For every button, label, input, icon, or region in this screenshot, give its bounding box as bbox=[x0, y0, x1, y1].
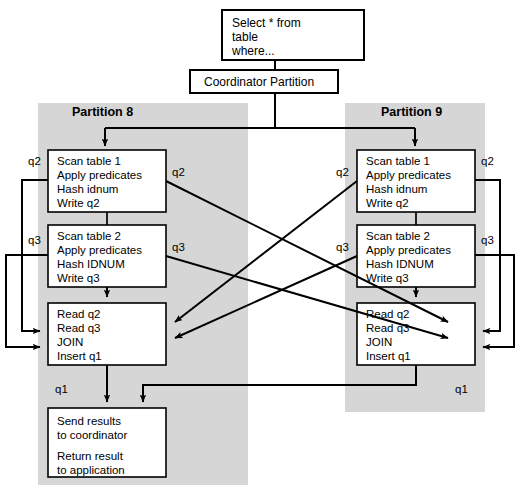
p8-q3-left-label: q3 bbox=[28, 234, 41, 246]
p9-scan-table-2-line-3: Hash IDNUM bbox=[366, 258, 434, 270]
p8-join-line-1: Read q2 bbox=[57, 308, 100, 320]
p9-scan-table-1-line-1: Scan table 1 bbox=[366, 155, 430, 167]
p9-join-line-4: Insert q1 bbox=[366, 350, 411, 362]
p9-scan-table-1-line-4: Write q2 bbox=[366, 197, 409, 209]
p8-join-line-4: Insert q1 bbox=[57, 350, 102, 362]
p9-join-line-2: Read q3 bbox=[366, 322, 409, 334]
query-box-line-2: table bbox=[232, 30, 258, 44]
p8-scan-table-1-line-4: Write q2 bbox=[57, 197, 100, 209]
p8-scan-table-2-line-2: Apply predicates bbox=[57, 244, 142, 256]
p8-scan-table-1-line-1: Scan table 1 bbox=[57, 155, 121, 167]
partition-9-title: Partition 9 bbox=[381, 105, 442, 119]
p9-scan-table-1-line-2: Apply predicates bbox=[366, 169, 451, 181]
p9-scan-table-2-line-1: Scan table 2 bbox=[366, 230, 430, 242]
p9-q1-label: q1 bbox=[455, 383, 468, 395]
p8-scan-table-1-line-2: Apply predicates bbox=[57, 169, 142, 181]
p8-join-line-3: JOIN bbox=[57, 336, 83, 348]
p9-q2-left-label: q2 bbox=[336, 166, 349, 178]
p8-scan-table-2-line-4: Write q3 bbox=[57, 272, 100, 284]
p8-q2-left-label: q2 bbox=[28, 155, 41, 167]
p9-join-line-1: Read q2 bbox=[366, 308, 409, 320]
p8-join-line-2: Read q3 bbox=[57, 322, 100, 334]
query-box-line-3: where... bbox=[231, 44, 275, 58]
partition-8-title: Partition 8 bbox=[72, 105, 133, 119]
p8-scan-table-2-line-1: Scan table 2 bbox=[57, 230, 121, 242]
p9-scan-table-1-line-3: Hash idnum bbox=[366, 183, 427, 195]
p8-send-results-line-4: Return result bbox=[57, 450, 124, 462]
parallel-query-diagram: Select * from table where... Coordinator… bbox=[0, 0, 520, 504]
p8-send-results-line-5: to application bbox=[57, 464, 125, 476]
coordinator-partition-label: Coordinator Partition bbox=[204, 75, 314, 89]
p8-send-results-line-2: to coordinator bbox=[57, 429, 127, 441]
p9-scan-table-2-line-4: Write q3 bbox=[366, 272, 409, 284]
p9-q3-left-label: q3 bbox=[336, 241, 349, 253]
p8-q2-right-label: q2 bbox=[172, 166, 185, 178]
query-box-line-1: Select * from bbox=[232, 16, 301, 30]
p9-q3-right-label: q3 bbox=[481, 234, 494, 246]
p9-join-line-3: JOIN bbox=[366, 336, 392, 348]
p8-scan-table-2-line-3: Hash IDNUM bbox=[57, 258, 125, 270]
p8-send-results-line-1: Send results bbox=[57, 415, 121, 427]
p9-scan-table-2-line-2: Apply predicates bbox=[366, 244, 451, 256]
p8-q3-right-label: q3 bbox=[172, 241, 185, 253]
p8-q1-label: q1 bbox=[55, 383, 68, 395]
p8-scan-table-1-line-3: Hash idnum bbox=[57, 183, 118, 195]
p9-q2-right-label: q2 bbox=[481, 155, 494, 167]
